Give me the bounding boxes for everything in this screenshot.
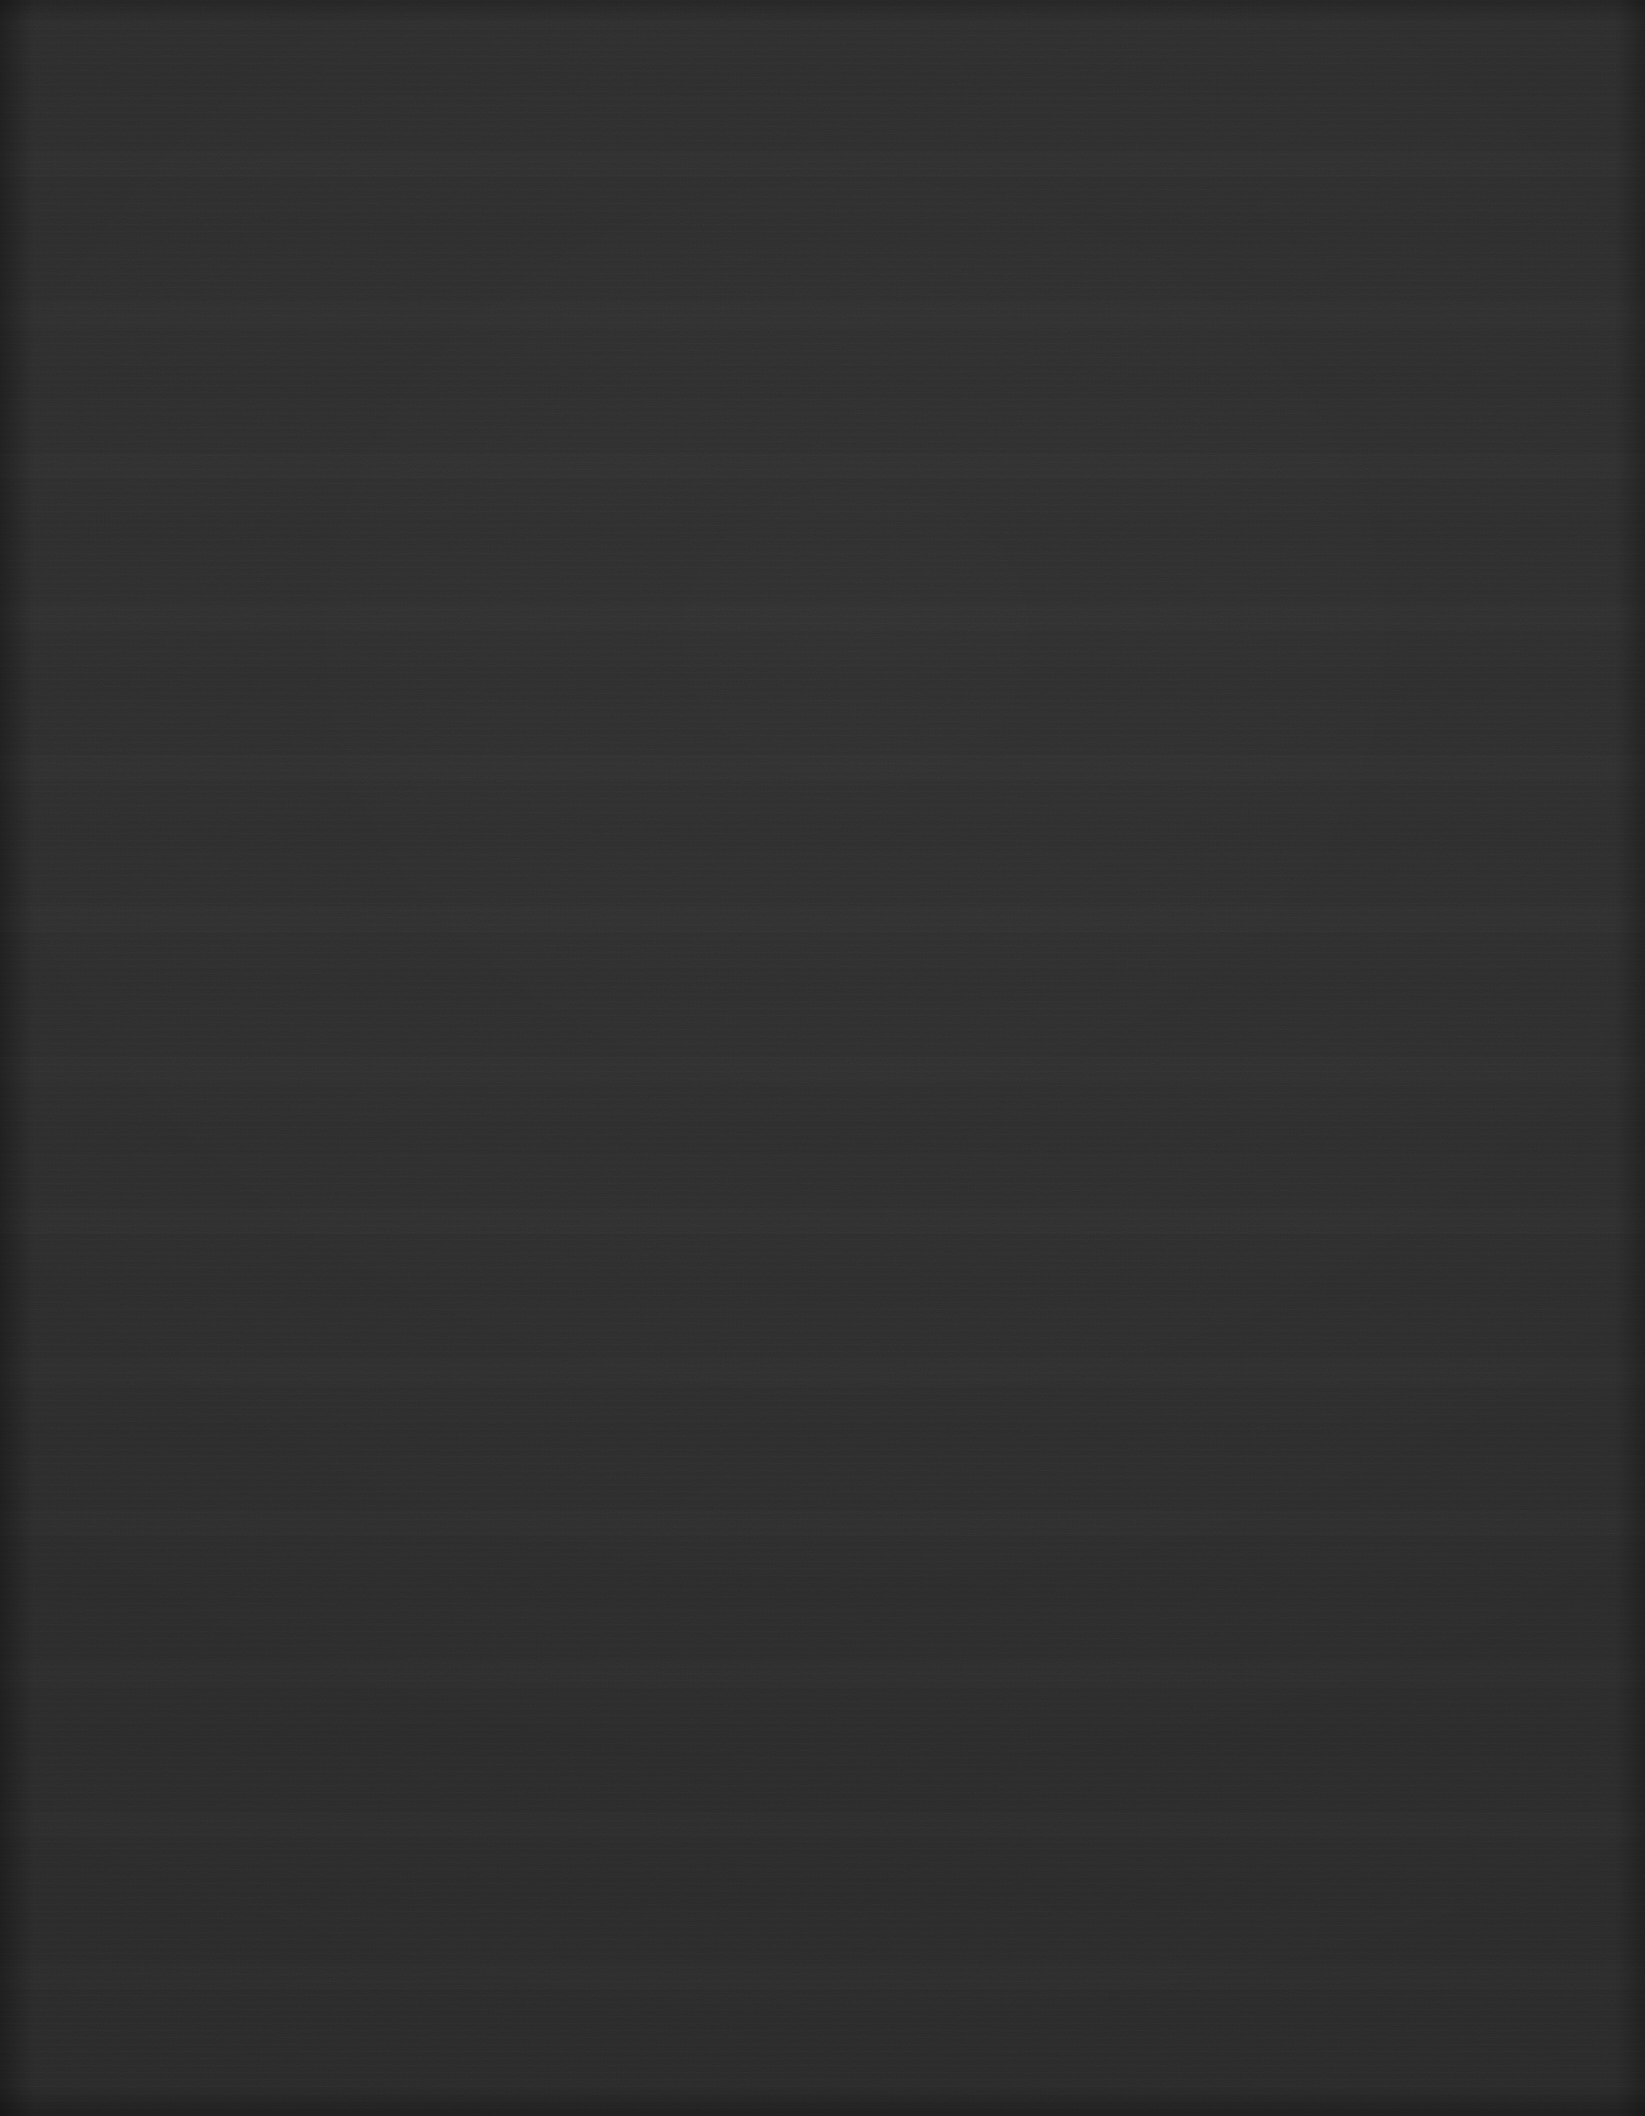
edge-vignette-overlay xyxy=(0,0,1645,2116)
blank-dark-frame xyxy=(0,0,1645,2116)
